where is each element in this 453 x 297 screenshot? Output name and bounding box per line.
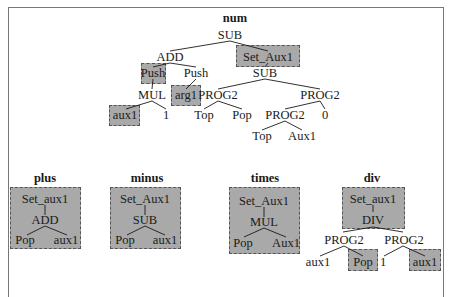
node-add: ADD — [156, 50, 183, 64]
node-sub-right: SUB — [253, 66, 277, 80]
div-prog2-right: PROG2 — [384, 233, 424, 247]
node-aux1-b: Aux1 — [288, 129, 316, 143]
node-one: 1 — [163, 108, 169, 122]
times-set: Set_Aux1 — [239, 194, 289, 208]
div-prog2-left: PROG2 — [324, 233, 364, 247]
minus-set: Set_Aux1 — [120, 192, 170, 206]
node-sub-root: SUB — [218, 28, 242, 42]
node-push-left: Push — [141, 66, 165, 80]
node-prog2-a: PROG2 — [198, 88, 238, 102]
node-mul: MUL — [138, 88, 166, 102]
plus-title: plus — [34, 171, 56, 185]
times-left: Pop — [233, 236, 252, 250]
times-op: MUL — [250, 215, 278, 229]
div-op: DIV — [362, 213, 384, 227]
div-rr: aux1 — [413, 255, 437, 269]
times-title: times — [251, 171, 279, 185]
node-top-b: Top — [252, 129, 271, 143]
div-lr: Pop — [353, 255, 372, 269]
minus-left: Pop — [115, 233, 134, 247]
plus-op: ADD — [31, 213, 58, 227]
node-zero: 0 — [322, 108, 328, 122]
node-top-a: Top — [194, 108, 213, 122]
minus-right: aux1 — [153, 233, 177, 247]
node-arg1: arg1 — [175, 88, 197, 102]
times-right: Aux1 — [272, 236, 300, 250]
div-ll: aux1 — [306, 255, 330, 269]
plus-right: aux1 — [54, 233, 78, 247]
node-prog2-c: PROG2 — [265, 108, 305, 122]
num-title: num — [223, 11, 247, 25]
div-title: div — [364, 171, 381, 185]
node-aux1: aux1 — [113, 108, 137, 122]
node-push-right: Push — [184, 66, 208, 80]
div-rl: 1 — [380, 255, 386, 269]
plus-left: Pop — [15, 233, 34, 247]
node-pop-a: Pop — [232, 108, 251, 122]
minus-op: SUB — [133, 213, 157, 227]
minus-title: minus — [131, 171, 164, 185]
node-prog2-b: PROG2 — [300, 88, 340, 102]
div-set: Set_aux1 — [350, 192, 397, 206]
plus-set: Set_aux1 — [22, 192, 69, 206]
node-set-aux1: Set_Aux1 — [243, 50, 293, 64]
